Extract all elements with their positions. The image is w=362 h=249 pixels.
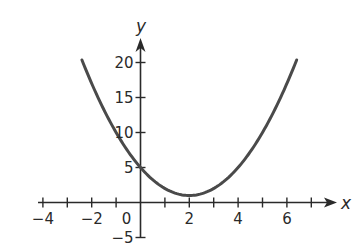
y-tick-label: 15 bbox=[114, 89, 133, 107]
x-tick-label: 2 bbox=[185, 210, 195, 228]
x-tick-label: 6 bbox=[282, 210, 292, 228]
y-tick-label: 20 bbox=[114, 54, 133, 72]
y-tick-label: −5 bbox=[111, 229, 133, 247]
y-axis-label: y bbox=[135, 16, 147, 36]
x-tick-labels: −4−20246 bbox=[32, 210, 292, 228]
x-tick-label: −2 bbox=[81, 210, 103, 228]
y-tick-label: 10 bbox=[114, 124, 133, 142]
x-tick-label: 0 bbox=[122, 210, 132, 228]
parabola-chart: −4−20246 2015105−5 x y bbox=[0, 0, 362, 249]
y-tick-label: 5 bbox=[124, 159, 134, 177]
x-axis-label: x bbox=[340, 193, 352, 213]
x-tick-label: −4 bbox=[32, 210, 54, 228]
x-tick-label: 4 bbox=[233, 210, 243, 228]
